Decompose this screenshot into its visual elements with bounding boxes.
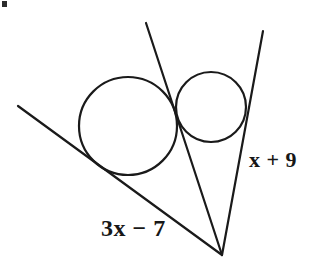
small-circle — [176, 72, 246, 142]
large-circle — [79, 77, 177, 175]
right-tangent-line — [222, 31, 263, 255]
label-right-tangent-length: x + 9 — [249, 147, 297, 173]
label-left-tangent-length: 3x − 7 — [101, 215, 166, 242]
geometry-figure: 3x − 7 x + 9 — [0, 0, 329, 261]
